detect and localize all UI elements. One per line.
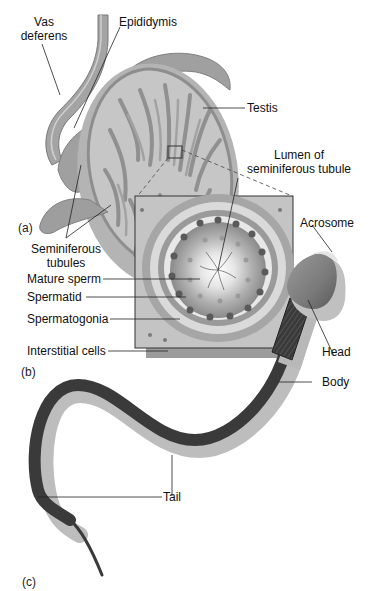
label-lumen-line1: Lumen of xyxy=(242,148,356,162)
tubule-section xyxy=(135,194,294,358)
label-seminiferous-line1: Seminiferous xyxy=(24,242,108,256)
label-head: Head xyxy=(322,345,351,359)
label-spermatogonia: Spermatogonia xyxy=(27,312,108,326)
label-vas-deferens-line2: deferens xyxy=(18,29,70,43)
label-lumen-line2: seminiferous tubule xyxy=(242,162,356,176)
label-spermatid: Spermatid xyxy=(27,290,82,304)
label-acrosome: Acrosome xyxy=(300,216,354,230)
label-seminiferous-tubules: Seminiferous tubules xyxy=(24,242,108,270)
label-interstitial-cells: Interstitial cells xyxy=(27,344,106,358)
label-testis: Testis xyxy=(247,101,278,115)
label-lumen: Lumen of seminiferous tubule xyxy=(242,148,356,176)
label-epididymis: Epididymis xyxy=(119,15,177,29)
panel-label-a: (a) xyxy=(18,221,33,235)
label-body: Body xyxy=(322,375,349,389)
label-vas-deferens: Vas deferens xyxy=(18,15,70,43)
label-mature-sperm: Mature sperm xyxy=(27,272,101,286)
label-tail: Tail xyxy=(163,490,181,504)
label-seminiferous-line2: tubules xyxy=(24,256,108,270)
label-vas-deferens-line1: Vas xyxy=(18,15,70,29)
panel-label-b: (b) xyxy=(21,365,36,379)
panel-label-c: (c) xyxy=(22,575,36,589)
